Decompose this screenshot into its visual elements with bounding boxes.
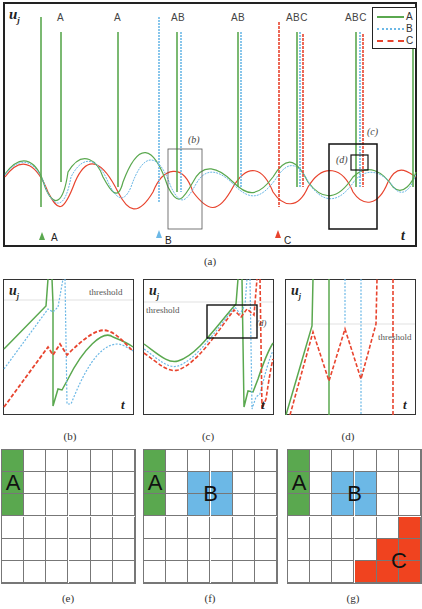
grid-cell <box>211 539 233 561</box>
membrane-potential-plot <box>3 2 417 247</box>
grid-cell <box>166 561 188 583</box>
grid-cell <box>332 450 354 472</box>
grid-cell <box>233 517 255 539</box>
grid-cell <box>377 450 399 472</box>
caption-a: (a) <box>195 255 225 267</box>
threshold-label: threshold <box>146 305 180 315</box>
grid-cell <box>255 494 277 516</box>
grid-cell <box>46 539 68 561</box>
grid-cell <box>355 561 377 583</box>
grid-cell <box>211 517 233 539</box>
grid-cell <box>377 494 399 516</box>
grid-cell <box>399 494 421 516</box>
grid-cell <box>2 561 24 583</box>
grid-cell <box>166 450 188 472</box>
panel-b: uj threshold t <box>3 279 134 415</box>
region-label-a: A <box>2 470 24 496</box>
grid-cell <box>166 517 188 539</box>
grid-cell <box>69 561 91 583</box>
zoom-label-d: (d) <box>336 154 348 165</box>
grid-g: ABC <box>287 449 422 584</box>
grid-cell <box>69 472 91 494</box>
grid-cell <box>288 517 310 539</box>
grid-cell <box>332 539 354 561</box>
zoom-label-c: (c) <box>367 126 378 137</box>
x-axis-label: t <box>261 397 265 413</box>
grid-cell <box>255 472 277 494</box>
grid-cell <box>69 494 91 516</box>
grid-cell <box>310 561 332 583</box>
zoom-label-b: (b) <box>188 134 200 145</box>
grid-cell <box>355 517 377 539</box>
grid-cell <box>24 561 46 583</box>
grid-cell <box>233 472 255 494</box>
spike-label: A <box>57 12 64 23</box>
grid-cell <box>113 517 135 539</box>
caption-e: (e) <box>53 592 83 604</box>
grid-cell <box>188 561 210 583</box>
grid-cell <box>188 517 210 539</box>
grid-cell <box>211 561 233 583</box>
y-axis-label: uj <box>9 283 19 301</box>
grid-cell <box>144 494 166 516</box>
grid-cell <box>310 450 332 472</box>
grid-cell <box>332 561 354 583</box>
grid-e: A <box>1 449 136 584</box>
grid-cell <box>91 494 113 516</box>
grid-cell <box>113 561 135 583</box>
stimulus-label-c: C <box>284 235 291 246</box>
grid-cell <box>2 517 24 539</box>
grid-cell <box>355 539 377 561</box>
grid-cell <box>113 472 135 494</box>
grid-cell <box>255 450 277 472</box>
grid-f: AB <box>143 449 278 584</box>
panel-a: uj A A A B A B A B C A B C A B C (b) (c)… <box>3 2 417 247</box>
x-axis-label: t <box>121 397 125 413</box>
spike-label: A B <box>171 12 185 23</box>
panel-c: uj threshold (d) t <box>143 279 274 415</box>
spike-label: A B C <box>286 12 308 23</box>
grid-cell <box>310 517 332 539</box>
grid-cell <box>188 539 210 561</box>
grid-cell <box>233 561 255 583</box>
grid-cell <box>113 494 135 516</box>
x-axis-label: t <box>403 397 407 413</box>
grid-cell <box>255 561 277 583</box>
threshold-label: threshold <box>89 287 123 297</box>
grid-cell <box>24 539 46 561</box>
legend: A B C <box>372 7 417 49</box>
grid-cell <box>144 517 166 539</box>
grid-cell <box>144 561 166 583</box>
stimulus-label-b: B <box>165 235 172 246</box>
grid-cell <box>91 472 113 494</box>
grid-cell <box>332 517 354 539</box>
grid-cell <box>144 450 166 472</box>
grid-cell <box>399 450 421 472</box>
grid-cell <box>91 517 113 539</box>
grid-cell <box>24 517 46 539</box>
caption-d: (d) <box>333 430 363 442</box>
grid-cell <box>91 450 113 472</box>
grid-cell <box>288 494 310 516</box>
caption-c: (c) <box>193 430 223 442</box>
caption-f: (f) <box>195 592 225 604</box>
grid-cell <box>211 450 233 472</box>
grid-cell <box>288 450 310 472</box>
grid-cell <box>166 494 188 516</box>
grid-cell <box>377 472 399 494</box>
region-label-b: B <box>343 481 365 507</box>
grid-cell <box>233 539 255 561</box>
region-label-a: A <box>288 470 310 496</box>
grid-cell <box>288 539 310 561</box>
grid-cell <box>91 539 113 561</box>
y-axis-label: uj <box>9 6 20 25</box>
grid-cell <box>46 472 68 494</box>
inset-label-d: (d) <box>256 318 267 328</box>
grid-cell <box>69 450 91 472</box>
grid-cell <box>144 539 166 561</box>
grid-cell <box>233 494 255 516</box>
grid-cell <box>69 539 91 561</box>
grid-cell <box>69 517 91 539</box>
region-label-a: A <box>144 470 166 496</box>
y-axis-label: uj <box>291 283 301 301</box>
